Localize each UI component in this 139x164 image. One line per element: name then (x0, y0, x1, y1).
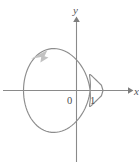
origin-label: 0 (67, 96, 72, 107)
y-axis-label: y (73, 5, 78, 16)
cardioid-figure: y x 0 1 (0, 0, 139, 164)
direction-arrow-icon (31, 50, 49, 63)
x-axis-label: x (134, 86, 139, 97)
plot-canvas (0, 0, 139, 164)
x-tick-label-1: 1 (90, 96, 95, 107)
y-axis-arrowhead (73, 17, 80, 23)
x-axis-arrowhead (128, 87, 134, 94)
